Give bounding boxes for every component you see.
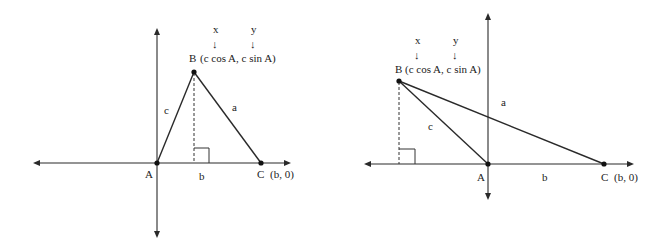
y-marker-label: y bbox=[453, 34, 459, 46]
right-angle-marker bbox=[194, 148, 209, 163]
right-angle-marker bbox=[399, 149, 415, 164]
y-down-arrow-icon: ↓ bbox=[452, 49, 458, 61]
y-marker-label: y bbox=[251, 23, 257, 35]
triangle-coordinate-diagrams: x ↓ y ↓ B (c cos A, c sin A) c a A b C (… bbox=[0, 0, 667, 247]
vertex-C-coords: (b, 0) bbox=[270, 168, 294, 181]
y-axis bbox=[485, 13, 491, 200]
y-down-arrow-icon: ↓ bbox=[250, 38, 256, 50]
arrow-left-icon bbox=[364, 161, 371, 167]
x-marker-label: x bbox=[213, 23, 219, 35]
arrow-down-icon bbox=[154, 231, 160, 238]
x-axis bbox=[33, 160, 291, 166]
side-a-label: a bbox=[232, 101, 237, 113]
vertex-C-label: C bbox=[257, 168, 264, 180]
vertex-B-coords: (c cos A, c sin A) bbox=[405, 63, 481, 76]
vertex-A-label: A bbox=[145, 168, 153, 180]
arrow-left-icon bbox=[33, 160, 40, 166]
side-b-label: b bbox=[542, 171, 548, 183]
vertex-C-dot bbox=[258, 160, 263, 165]
arrow-down-icon bbox=[485, 193, 491, 200]
figure-obtuse: x ↓ y ↓ B (c cos A, c sin A) a c A b C (… bbox=[364, 13, 638, 200]
vertex-C-label: C bbox=[601, 171, 608, 183]
figure-acute: x ↓ y ↓ B (c cos A, c sin A) c a A b C (… bbox=[33, 23, 294, 238]
vertex-C-dot bbox=[601, 161, 606, 166]
vertex-B-label: B bbox=[395, 63, 402, 75]
arrow-right-icon bbox=[627, 161, 634, 167]
vertex-A-dot bbox=[154, 160, 159, 165]
x-marker-label: x bbox=[415, 34, 421, 46]
x-axis bbox=[364, 161, 634, 167]
side-a-label: a bbox=[501, 96, 506, 108]
vertex-A-label: A bbox=[477, 171, 485, 183]
vertex-B-dot bbox=[191, 69, 196, 74]
side-c-label: c bbox=[164, 104, 169, 116]
vertex-C-coords: (b, 0) bbox=[614, 171, 638, 184]
side-b-label: b bbox=[199, 170, 205, 182]
arrow-up-icon bbox=[485, 13, 491, 20]
side-c-label: c bbox=[428, 120, 433, 132]
side-a bbox=[194, 72, 261, 163]
y-axis bbox=[154, 28, 160, 238]
diagram-canvas: x ↓ y ↓ B (c cos A, c sin A) c a A b C (… bbox=[0, 0, 667, 247]
vertex-B-label: B bbox=[189, 52, 196, 64]
side-c bbox=[399, 81, 488, 164]
x-down-arrow-icon: ↓ bbox=[212, 38, 218, 50]
vertex-A-dot bbox=[485, 161, 490, 166]
arrow-right-icon bbox=[284, 160, 291, 166]
vertex-B-dot bbox=[396, 78, 401, 83]
side-c bbox=[157, 72, 194, 163]
x-down-arrow-icon: ↓ bbox=[414, 49, 420, 61]
arrow-up-icon bbox=[154, 28, 160, 35]
vertex-B-coords: (c cos A, c sin A) bbox=[200, 52, 276, 65]
